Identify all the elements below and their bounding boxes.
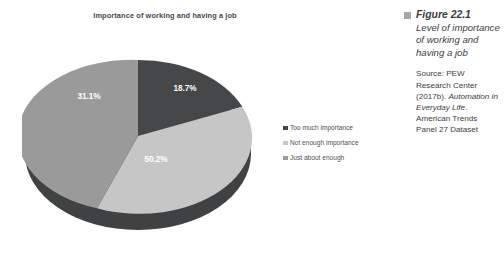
legend-swatch-icon bbox=[283, 156, 288, 161]
pie-label-too-much-importance: 18.7% bbox=[173, 84, 197, 93]
legend-swatch-icon bbox=[283, 141, 288, 146]
chart-panel: Importance of working and having a job bbox=[0, 0, 396, 256]
pie-chart: 18.7% 50.2% 31.1% bbox=[22, 36, 254, 236]
legend-swatch-icon bbox=[283, 126, 288, 131]
figure-number: Figure 22.1 bbox=[416, 9, 500, 22]
pie-label-not-enough-importance: 50.2% bbox=[144, 155, 168, 164]
legend-item-not-enough-importance[interactable]: Not enough importance bbox=[283, 136, 395, 150]
legend-item-too-much-importance[interactable]: Too much importance bbox=[283, 121, 395, 135]
pie-chart-svg: 18.7% 50.2% 31.1% bbox=[22, 36, 254, 236]
figure-caption-panel: Figure 22.1 Level of importance of worki… bbox=[404, 9, 500, 136]
legend-label: Just about enough bbox=[290, 155, 344, 162]
figure-description: Level of importance of working and havin… bbox=[416, 22, 500, 60]
legend-label: Too much importance bbox=[290, 125, 353, 132]
chart-legend: Too much importance Not enough importanc… bbox=[283, 121, 395, 166]
figure-caption-text: Figure 22.1 Level of importance of worki… bbox=[416, 9, 500, 59]
legend-label: Not enough importance bbox=[290, 140, 359, 147]
pie-slices bbox=[22, 60, 252, 214]
figure-caption-header: Figure 22.1 Level of importance of worki… bbox=[404, 9, 500, 59]
square-bullet-icon bbox=[404, 12, 411, 19]
legend-item-just-about-enough[interactable]: Just about enough bbox=[283, 151, 395, 165]
figure-source: Source: PEW Research Center (2017b). Aut… bbox=[416, 68, 500, 135]
chart-title: Importance of working and having a job bbox=[0, 11, 330, 20]
pie-label-just-about-enough: 31.1% bbox=[77, 92, 101, 101]
